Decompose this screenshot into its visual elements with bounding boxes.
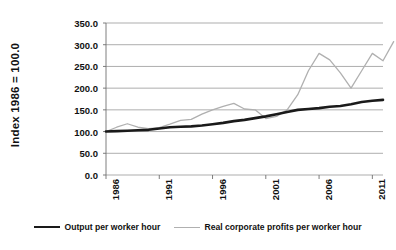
legend-entry-1: Real corporate profits per worker hour — [174, 222, 361, 232]
chart-figure: Index 1986 = 100.0 0.050.0100.0150.0200.… — [0, 0, 396, 250]
legend-line-swatch-icon — [174, 227, 200, 228]
legend-label: Real corporate profits per worker hour — [204, 222, 361, 232]
legend-entry-0: Output per worker hour — [34, 222, 160, 232]
x-axis-tick-label: 1986 — [110, 179, 121, 200]
x-axis-tick-label: 1991 — [163, 179, 174, 200]
x-axis-tick-label: 2011 — [376, 179, 387, 200]
x-axis-tick-label: 2001 — [270, 179, 281, 200]
x-axis-tick-label: 1996 — [217, 179, 228, 200]
chart-legend: Output per worker hourReal corporate pro… — [0, 222, 396, 232]
plot-area: 0.050.0100.0150.0200.0250.0300.0350.0 19… — [0, 0, 396, 200]
x-axis-tick-labels: 198619911996200120062011 — [0, 0, 396, 200]
legend-line-swatch-icon — [34, 226, 60, 228]
x-axis-tick-label: 2006 — [323, 179, 334, 200]
legend-label: Output per worker hour — [64, 222, 160, 232]
